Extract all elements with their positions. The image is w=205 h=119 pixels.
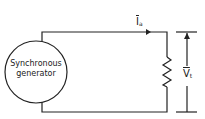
generator-label: Synchronous generator bbox=[8, 59, 64, 79]
current-subscript: a bbox=[139, 20, 143, 27]
resistor-icon bbox=[163, 57, 171, 87]
voltage-symbol: V bbox=[183, 68, 190, 79]
generator-label-line1: Synchronous bbox=[8, 59, 64, 69]
current-arrow-icon bbox=[146, 29, 151, 35]
current-label: Ia bbox=[136, 16, 143, 27]
voltage-arrow-icon bbox=[184, 33, 190, 39]
voltage-subscript: t bbox=[190, 72, 192, 79]
voltage-label: Vt bbox=[183, 68, 192, 79]
generator-label-line2: generator bbox=[8, 69, 64, 79]
